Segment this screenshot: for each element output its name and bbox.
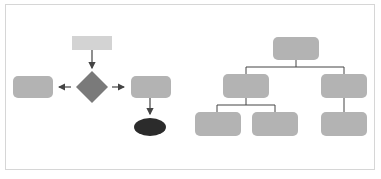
- org-tree: [195, 37, 367, 136]
- tree-leaf-node-3: [321, 112, 367, 136]
- flowchart-decision-diamond: [76, 71, 108, 103]
- flowchart-end-ellipse: [134, 118, 166, 136]
- flowchart-start-box: [72, 36, 112, 50]
- flowchart-left-box: [13, 76, 53, 98]
- diagram-canvas: [0, 0, 381, 179]
- tree-root-node: [273, 37, 319, 60]
- tree-leaf-node-1: [195, 112, 241, 136]
- flowchart: [13, 36, 171, 136]
- tree-child-node-2: [321, 74, 367, 98]
- tree-leaf-node-2: [252, 112, 298, 136]
- flowchart-right-box: [131, 76, 171, 98]
- tree-child-node-1: [223, 74, 269, 98]
